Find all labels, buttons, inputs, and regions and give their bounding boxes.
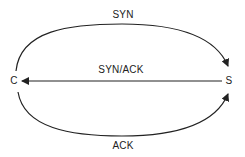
server-node-label: S [226,76,233,86]
tcp-handshake-diagram: SYN SYN/ACK ACK C S [0,0,245,157]
client-node-label: C [10,76,17,86]
syn-label: SYN [112,10,133,20]
syn-ack-label: SYN/ACK [98,65,143,75]
ack-arrow [18,92,228,136]
diagram-graphics [0,0,245,157]
ack-label: ACK [112,141,133,151]
